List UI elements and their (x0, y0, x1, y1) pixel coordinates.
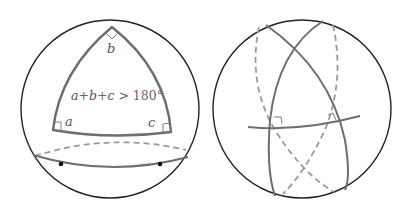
right-angle-marker-left (274, 117, 282, 124)
left-sphere: b a c a+b+c > 180° (21, 20, 199, 198)
vertex-label-c: c (148, 115, 156, 130)
great-circle-2-front (269, 21, 323, 196)
equator-front (33, 155, 188, 167)
equator-point-2 (158, 162, 163, 167)
vertex-label-b: b (107, 41, 115, 56)
great-circle-2-back-dashed (283, 25, 338, 194)
equator-point-1 (59, 162, 64, 167)
common-perpendicular-arc (248, 116, 360, 128)
great-circle-1-back-dashed (256, 27, 334, 192)
right-angle-marker-b (106, 33, 118, 39)
equator-back-dashed (35, 142, 186, 156)
right-sphere (213, 20, 391, 198)
right-angle-marker-c (163, 123, 170, 132)
diagram-canvas: b a c a+b+c > 180° (0, 0, 410, 215)
angle-sum-formula: a+b+c > 180° (71, 88, 163, 103)
vertex-label-a: a (65, 114, 73, 129)
great-circle-1-front (266, 25, 348, 190)
